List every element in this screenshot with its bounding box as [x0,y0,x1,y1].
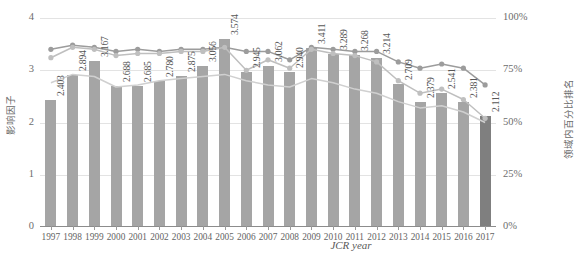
x-axis-tickmark [159,226,160,230]
line-marker [461,97,466,102]
line-marker [439,87,444,92]
bar-value-label: 2.403 [55,76,66,97]
bar-value-label: 2.709 [403,60,414,81]
line-marker [483,82,488,87]
bar-value-label: 2.381 [468,77,479,98]
bar-value-label: 3.574 [229,15,240,36]
bar-value-label: 3.214 [381,33,392,54]
right-axis-tick-label: 100% [503,11,537,22]
left-axis-tick-label: 2 [8,116,34,127]
x-axis-tickmark [311,226,312,230]
line-marker [287,66,292,71]
line-marker [265,57,270,62]
x-axis-tickmark [333,226,334,230]
left-axis-tick-label: 4 [8,11,34,22]
line-marker [352,53,357,58]
bar-value-label: 2.945 [251,48,262,69]
bar-value-label: 2.875 [186,51,197,72]
bar-value-label: 3.056 [207,42,218,63]
bar-value-label: 2.940 [294,48,305,69]
line-marker [309,47,314,52]
line-marker [331,51,336,56]
x-axis-tickmark [463,226,464,230]
line-marker [374,49,379,54]
left-axis-tick-label: 3 [8,63,34,74]
x-axis-tickmark [377,226,378,230]
line-marker [265,49,270,54]
bar-value-label: 3.289 [338,30,349,51]
line-marker [222,45,227,50]
x-axis-tickmark [290,226,291,230]
line-marker [287,57,292,62]
line-marker [244,49,249,54]
x-axis-tickmark [398,226,399,230]
line-marker [135,51,140,56]
x-axis-tickmark [181,226,182,230]
x-axis-tickmark [73,226,74,230]
line-marker [48,47,53,52]
line-marker [157,51,162,56]
left-axis-tick-label: 0 [8,220,34,231]
bar-value-label: 2.780 [164,56,175,77]
line-path [51,74,485,122]
x-axis-tickmark [268,226,269,230]
line-marker [48,55,53,60]
line-marker [113,53,118,58]
bar-value-label: 2.112 [490,91,501,111]
x-axis-tickmark [420,226,421,230]
line-marker [417,91,422,96]
x-axis-tickmark [246,226,247,230]
bar-value-label: 3.167 [99,36,110,57]
x-axis-tickmark [225,226,226,230]
bar-value-label: 3.411 [316,24,327,44]
right-axis-title: 领域内百分比排名 [561,59,575,179]
line-marker [70,45,75,50]
x-axis-tickmark [138,226,139,230]
bar-value-label: 2.894 [77,50,88,71]
line-marker [461,66,466,71]
line-marker [200,49,205,54]
right-axis-tick-label: 25% [503,168,537,179]
line-marker [179,49,184,54]
x-axis-tickmark [51,226,52,230]
plot-area: 2.4032.8943.1672.6882.6852.7802.8753.056… [40,18,496,227]
left-axis-tick-label: 1 [8,168,34,179]
line-marker [396,59,401,64]
line-marker [417,66,422,71]
bar-value-label: 3.268 [359,31,370,52]
right-axis-tick-label: 75% [503,63,537,74]
x-axis-tick-label: 2017 [472,232,498,242]
x-axis-tickmark [203,226,204,230]
right-axis-tick-label: 0% [503,220,537,231]
x-axis-tickmark [355,226,356,230]
x-axis-tickmark [116,226,117,230]
x-axis-tickmark [485,226,486,230]
bar-value-label: 3.062 [273,41,284,62]
x-axis-tickmark [94,226,95,230]
right-axis-tick-label: 50% [503,116,537,127]
line-marker [244,68,249,73]
line-marker [374,59,379,64]
line-marker [92,47,97,52]
line-marker [483,116,488,121]
bar-value-label: 2.541 [446,69,457,90]
line-marker [396,78,401,83]
x-axis-tickmark [442,226,443,230]
bar-value-label: 2.685 [142,61,153,82]
bar-value-label: 2.688 [121,61,132,82]
line-marker [439,61,444,66]
bar-value-label: 2.379 [425,77,436,98]
